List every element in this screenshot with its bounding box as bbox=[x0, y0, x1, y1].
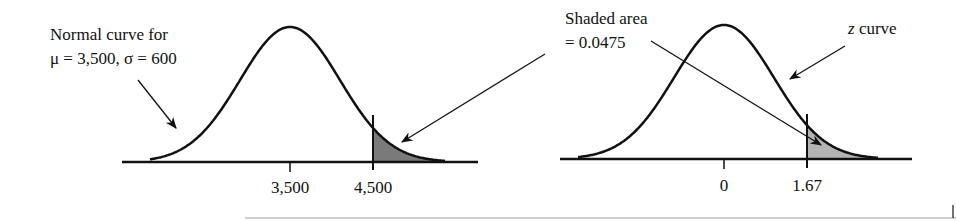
shaded-area-arrow-right bbox=[651, 41, 821, 145]
left-curve-label-line2: μ = 3,500, σ = 600 bbox=[50, 48, 177, 69]
tick-label-1-67: 1.67 bbox=[792, 176, 822, 196]
left-shaded-tail bbox=[373, 128, 445, 162]
left-curve-label-line1: Normal curve for bbox=[50, 24, 168, 45]
z-symbol: z bbox=[848, 19, 855, 38]
shaded-area-arrow-left bbox=[402, 54, 545, 142]
right-shaded-tail bbox=[807, 125, 878, 159]
tick-label-3500: 3,500 bbox=[271, 178, 309, 198]
z-curve-arrow bbox=[790, 46, 845, 79]
shaded-area-value: = 0.0475 bbox=[565, 32, 626, 53]
shaded-area-label: Shaded area bbox=[565, 8, 648, 29]
left-curve bbox=[150, 27, 445, 161]
tick-label-4500: 4,500 bbox=[354, 178, 392, 198]
z-curve-label-text: curve bbox=[855, 19, 897, 38]
tick-label-0: 0 bbox=[720, 176, 729, 196]
z-curve-label: z curve bbox=[848, 18, 897, 39]
normal-curve-arrow bbox=[138, 80, 176, 128]
